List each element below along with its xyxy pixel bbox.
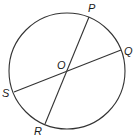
circle-diagram: P Q S R O — [0, 0, 140, 139]
label-p: P — [88, 2, 96, 14]
label-o: O — [57, 59, 66, 71]
segment-pr — [45, 17, 89, 124]
label-r: R — [34, 125, 42, 137]
label-s: S — [2, 87, 10, 99]
label-q: Q — [124, 45, 133, 57]
segment-qs — [14, 50, 121, 92]
